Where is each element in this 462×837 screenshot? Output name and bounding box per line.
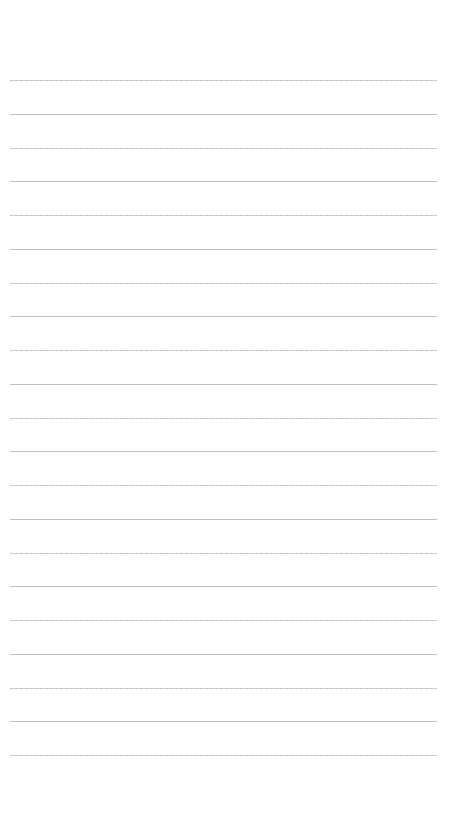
ruled-line [10,485,437,486]
ruled-line [10,755,437,756]
ruled-line [10,553,437,554]
ruled-line [10,249,437,250]
ruled-line [10,451,437,452]
ruled-line [10,688,437,689]
ruled-line [10,350,437,351]
ruled-line [10,384,437,385]
ruled-line [10,519,437,520]
ruled-line [10,721,437,722]
ruled-line [10,148,437,149]
ruled-line [10,114,437,115]
lined-page [0,0,462,837]
ruled-line [10,654,437,655]
ruled-line [10,586,437,587]
ruled-line [10,283,437,284]
ruled-line [10,620,437,621]
ruled-line [10,80,437,81]
ruled-line [10,418,437,419]
ruled-line [10,181,437,182]
ruled-line [10,316,437,317]
ruled-line [10,215,437,216]
